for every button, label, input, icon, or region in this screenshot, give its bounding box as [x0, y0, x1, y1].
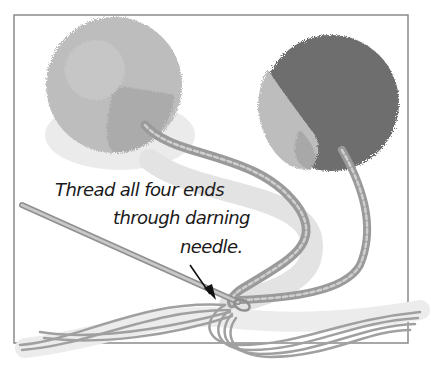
- caption-line-1: Thread all four ends: [55, 179, 224, 200]
- caption-line-3: needle.: [180, 236, 243, 257]
- right-pompom: [258, 35, 399, 171]
- caption-line-2: through darning: [113, 207, 250, 228]
- pompom-threading-illustration: Thread all four ends through darning nee…: [0, 0, 431, 365]
- left-pompom: [46, 17, 182, 153]
